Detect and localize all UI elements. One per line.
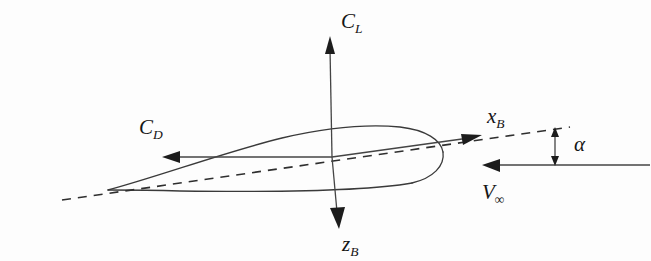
label-freestream-velocity: V∞ [482,180,505,207]
lift-vector-shaft [330,48,332,157]
lift-arrowhead [325,36,335,54]
lift-vector [325,36,335,157]
drag-arrowhead [162,151,180,163]
label-lift-sub: L [354,21,363,36]
label-lift-coefficient: CL [341,9,363,36]
label-body-x-sub: B [496,116,504,131]
airfoil-trailing-edge-round [412,152,443,183]
body-z-arrowhead [330,207,345,229]
label-body-z-base: z [341,232,350,256]
body-z-axis-vector [330,157,345,229]
label-lift-base: C [341,9,356,33]
airfoil-force-diagram: CL CD xB zB V∞ α [0,0,651,261]
angle-of-attack-indicator [551,127,559,166]
body-z-shaft [332,157,337,212]
label-freestream-sub: ∞ [495,192,505,207]
label-drag-base: C [139,115,154,139]
label-drag-coefficient: CD [139,115,163,142]
label-drag-sub: D [152,127,163,142]
label-body-z-sub: B [350,244,358,259]
diagram-canvas: CL CD xB zB V∞ α [0,0,651,261]
airfoil-lower-surface [108,183,412,191]
drag-vector [162,151,332,163]
label-body-z-axis: zB [341,232,358,259]
label-angle-of-attack: α [574,132,586,156]
body-x-axis-vector [332,134,482,157]
label-body-x-axis: xB [486,104,505,131]
freestream-vector [482,159,650,172]
freestream-arrowhead [482,159,500,172]
